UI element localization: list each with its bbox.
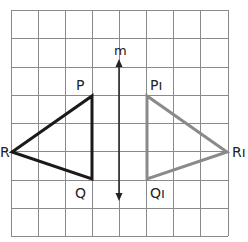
label-p: P [76,78,84,92]
label-r-prime: Rı [232,145,246,159]
arrow-up-icon [116,59,123,67]
label-q-prime: Qı [150,186,165,200]
arrow-down-icon [116,193,123,201]
label-p-prime: Pı [150,78,162,92]
label-m: m [114,44,127,57]
triangle-pqr [12,96,92,179]
mirror-line-m [116,59,123,201]
triangle-p-q-r-prime [147,96,227,179]
label-r: R [0,145,10,159]
grid-diagram [0,0,248,242]
label-q: Q [75,186,86,200]
